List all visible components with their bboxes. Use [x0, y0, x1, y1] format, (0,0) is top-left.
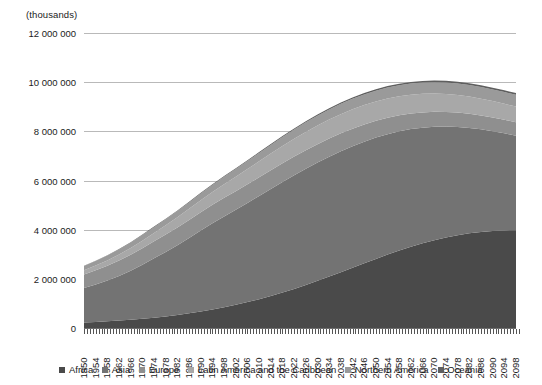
legend-item[interactable]: Oceania: [438, 364, 483, 375]
legend-label: Europe: [149, 364, 180, 375]
x-tick: [519, 329, 520, 334]
stacked-areas: [84, 33, 516, 328]
legend-item[interactable]: Asia: [102, 364, 130, 375]
y-tick-label: 2 000 000: [34, 273, 76, 284]
legend-label: Africa: [69, 364, 93, 375]
y-tick-label: 12 000 000: [28, 28, 76, 39]
legend-swatch-icon: [102, 367, 108, 373]
y-axis-tick-labels: 12 000 00010 000 0008 000 0006 000 0004 …: [0, 0, 80, 385]
legend-label: Asia: [112, 364, 130, 375]
population-stacked-area-chart: (thousands) 12 000 00010 000 0008 000 00…: [0, 0, 542, 385]
y-tick-label: 0: [71, 323, 76, 334]
legend-swatch-icon: [139, 367, 145, 373]
legend-label: Latin America and the Caribbean: [198, 364, 336, 375]
y-tick-label: 8 000 000: [34, 126, 76, 137]
legend-swatch-icon: [438, 367, 444, 373]
legend-item[interactable]: Europe: [139, 364, 179, 375]
plot-area: [84, 33, 516, 328]
legend-label: Oceania: [447, 364, 482, 375]
legend-swatch-icon: [188, 367, 194, 373]
legend-item[interactable]: Latin America and the Caribbean: [188, 364, 336, 375]
chart-legend: AfricaAsiaEuropeLatin America and the Ca…: [0, 364, 542, 375]
y-tick-label: 10 000 000: [28, 77, 76, 88]
legend-item[interactable]: Northern America: [345, 364, 428, 375]
legend-swatch-icon: [345, 367, 351, 373]
area-svg: [84, 33, 516, 328]
x-tick: [516, 329, 517, 334]
y-tick-label: 6 000 000: [34, 175, 76, 186]
legend-item[interactable]: Africa: [59, 364, 93, 375]
y-tick-label: 4 000 000: [34, 224, 76, 235]
legend-swatch-icon: [59, 367, 65, 373]
legend-label: Northern America: [355, 364, 429, 375]
